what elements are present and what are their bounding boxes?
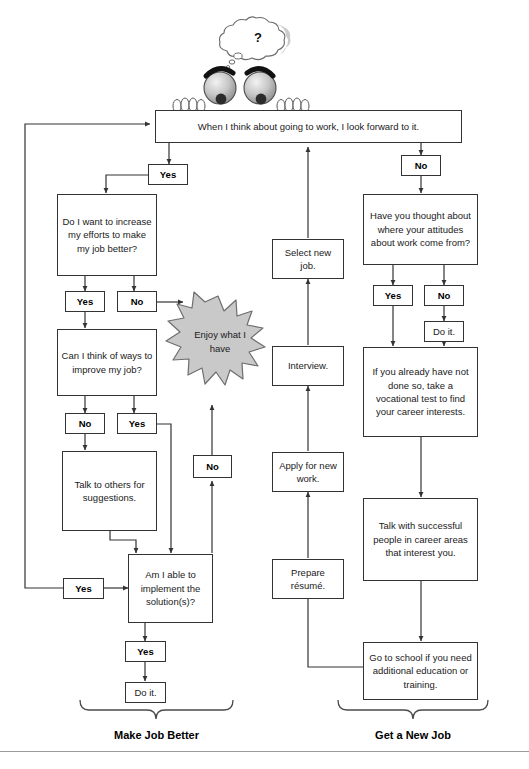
brace-right (338, 700, 488, 719)
node-talk-with-successful[interactable]: Talk with successful people in career ar… (363, 498, 478, 581)
label-left-q1-yes[interactable]: Yes (65, 291, 105, 312)
node-go-to-school[interactable]: Go to school if you need additional educ… (363, 642, 478, 700)
svg-text:?: ? (254, 30, 262, 45)
thought-bubble-icon: ? (220, 17, 291, 69)
node-select-new-job[interactable]: Select new job. (272, 239, 344, 279)
node-left-do-it[interactable]: Do it. (125, 682, 166, 703)
node-talk-to-others[interactable]: Talk to others for suggestions. (62, 451, 157, 531)
label-left-q2-yes[interactable]: Yes (117, 413, 157, 434)
starburst-label: Enjoy what I have (185, 328, 255, 356)
section-title-left: Make Job Better (80, 729, 233, 741)
node-right-do-it[interactable]: Do it. (424, 321, 464, 342)
node-interview[interactable]: Interview. (272, 346, 344, 386)
node-prepare-resume[interactable]: Prepare résumé. (272, 559, 344, 599)
label-right-q1-no[interactable]: No (424, 285, 464, 306)
node-left-q1[interactable]: Do I want to increase my efforts to make… (57, 194, 157, 276)
eyes-icon (204, 69, 276, 105)
label-start-no[interactable]: No (401, 155, 441, 176)
label-left-q3-yes-down[interactable]: Yes (125, 641, 166, 662)
label-left-q3-yes-in[interactable]: Yes (63, 578, 104, 599)
node-right-q1[interactable]: Have you thought about where your attitu… (363, 194, 478, 265)
label-start-yes[interactable]: Yes (148, 164, 188, 185)
node-left-q3[interactable]: Am I able to implement the solution(s)? (128, 554, 213, 623)
node-left-q2[interactable]: Can I think of ways to improve my job? (57, 329, 157, 396)
node-start[interactable]: When I think about going to work, I look… (155, 110, 462, 143)
label-right-q1-yes[interactable]: Yes (373, 285, 413, 306)
label-left-q1-no[interactable]: No (117, 291, 157, 312)
label-left-q3-no[interactable]: No (193, 455, 232, 478)
bottom-divider (0, 751, 529, 752)
section-title-right: Get a New Job (338, 729, 488, 741)
flowchart-canvas: ? (0, 0, 529, 769)
label-left-q2-no[interactable]: No (65, 413, 105, 434)
node-vocational-test[interactable]: If you already have not done so, take a … (363, 347, 478, 437)
node-apply-new-work[interactable]: Apply for new work. (272, 452, 344, 492)
